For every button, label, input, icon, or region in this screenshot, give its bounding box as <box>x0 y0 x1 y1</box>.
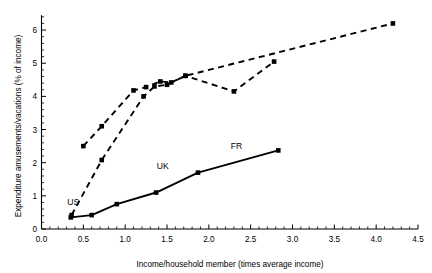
data-point-marker <box>152 84 157 89</box>
data-series-group <box>68 21 395 220</box>
y-tick-label: 3 <box>32 126 37 135</box>
x-tick-label: 2.5 <box>245 235 257 244</box>
data-point-marker <box>115 202 120 207</box>
data-point-marker <box>158 79 163 84</box>
y-tick-label: 0 <box>32 225 37 234</box>
data-point-marker <box>144 85 149 90</box>
data-point-marker <box>391 21 396 26</box>
x-tick-label: 0.0 <box>36 235 48 244</box>
x-tick-label: 4.5 <box>412 235 424 244</box>
x-tick-label: 3.5 <box>329 235 341 244</box>
data-point-marker <box>154 190 159 195</box>
series-label-uk: UK <box>157 161 169 171</box>
data-point-marker <box>81 144 86 149</box>
x-tick-label: 4.0 <box>370 235 382 244</box>
data-point-marker <box>196 170 201 175</box>
data-point-marker <box>69 213 74 218</box>
x-tick-label: 1.5 <box>161 235 173 244</box>
chart-figure: 0.00.51.01.52.02.53.03.54.04.50123456 US… <box>0 0 432 273</box>
y-axis-title: Expenditure amusements/vacations (% of i… <box>14 34 23 217</box>
data-point-marker <box>165 82 170 87</box>
y-tick-label: 1 <box>32 192 37 201</box>
x-tick-label: 3.0 <box>287 235 299 244</box>
chart-canvas: 0.00.51.01.52.02.53.03.54.04.50123456 US… <box>0 0 432 273</box>
x-tick-label: 0.5 <box>78 235 90 244</box>
data-point-marker <box>141 94 146 99</box>
series-line-dashed-series-upper <box>83 62 274 147</box>
y-tick-label: 6 <box>32 26 37 35</box>
series-label-us: US <box>67 197 79 207</box>
data-point-marker <box>99 124 104 129</box>
data-point-marker <box>276 148 281 153</box>
series-line-dashed-series-lower <box>72 23 393 215</box>
data-point-marker <box>183 74 188 79</box>
x-tick-label: 2.0 <box>203 235 215 244</box>
data-point-marker <box>131 88 136 93</box>
x-tick-label: 1.0 <box>119 235 131 244</box>
y-tick-label: 2 <box>32 159 37 168</box>
data-point-marker <box>272 59 277 64</box>
axes: 0.00.51.01.52.02.53.03.54.04.50123456 <box>32 15 424 243</box>
data-point-marker <box>232 89 237 94</box>
data-point-marker <box>89 213 94 218</box>
x-axis-title: Income/household member (times average i… <box>136 260 323 269</box>
y-tick-label: 5 <box>32 59 37 68</box>
y-tick-label: 4 <box>32 92 37 101</box>
data-point-marker <box>99 158 104 163</box>
series-label-fr: FR <box>231 141 242 151</box>
